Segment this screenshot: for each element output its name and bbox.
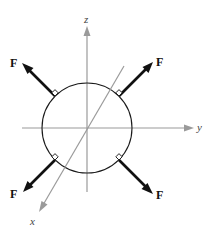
force-upper-left: F bbox=[10, 56, 58, 96]
y-axis bbox=[22, 125, 194, 132]
right-angle-marker-icon bbox=[116, 154, 122, 160]
force-label: F bbox=[156, 188, 163, 202]
z-axis-label: z bbox=[83, 13, 89, 25]
x-axis-arrow-icon bbox=[39, 201, 48, 212]
z-axis-arrow-icon bbox=[84, 26, 91, 36]
free-body-diagram: F F F F z y x bbox=[0, 0, 213, 232]
y-axis-label: y bbox=[196, 121, 202, 133]
force-upper-right: F bbox=[116, 55, 164, 96]
x-axis bbox=[39, 66, 124, 212]
y-axis-arrow-icon bbox=[184, 125, 194, 132]
force-label: F bbox=[10, 187, 17, 201]
force-lower-left: F bbox=[10, 154, 58, 201]
force-lower-right: F bbox=[116, 154, 164, 202]
z-axis bbox=[84, 26, 91, 192]
x-axis-label: x bbox=[29, 215, 35, 227]
force-label: F bbox=[10, 56, 17, 70]
right-angle-marker-icon bbox=[52, 154, 58, 160]
force-label: F bbox=[156, 55, 163, 69]
